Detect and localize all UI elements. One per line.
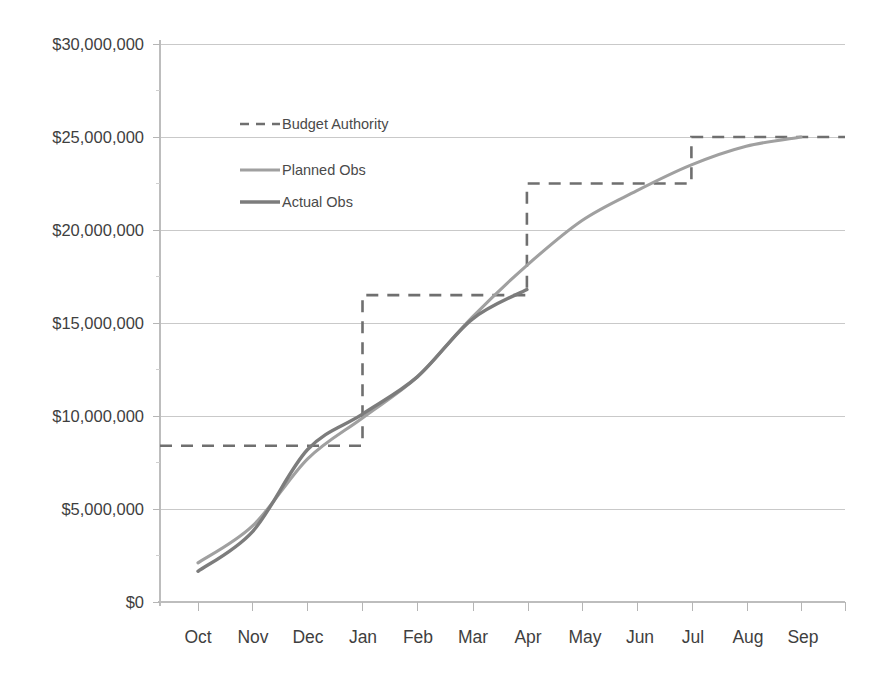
x-label-mar: Mar [458, 627, 488, 647]
x-label-aug: Aug [732, 627, 763, 647]
y-label-15m: $15,000,000 [52, 314, 144, 332]
x-tick-marks [198, 602, 845, 611]
x-label-jan: Jan [349, 627, 377, 647]
series-line-budget-authority [160, 137, 845, 446]
chart-legend: Budget Authority Planned Obs Actual Obs [240, 116, 389, 210]
x-label-apr: Apr [514, 627, 541, 647]
x-label-oct: Oct [184, 627, 211, 647]
x-label-nov: Nov [237, 627, 268, 647]
x-label-jul: Jul [682, 627, 704, 647]
y-label-5m: $5,000,000 [61, 500, 144, 518]
x-label-may: May [568, 627, 601, 647]
legend-label-budget-authority: Budget Authority [282, 116, 389, 132]
legend-label-actual-obs: Actual Obs [282, 194, 353, 210]
y-label-30m: $30,000,000 [52, 35, 144, 53]
legend-label-planned-obs: Planned Obs [282, 162, 366, 178]
y-axis-labels: $30,000,000 $25,000,000 $20,000,000 $15,… [52, 35, 144, 611]
y-label-10m: $10,000,000 [52, 407, 144, 425]
y-label-20m: $20,000,000 [52, 221, 144, 239]
y-label-0: $0 [126, 593, 144, 611]
line-chart: $30,000,000 $25,000,000 $20,000,000 $15,… [0, 0, 869, 674]
y-label-25m: $25,000,000 [52, 128, 144, 146]
x-label-jun: Jun [626, 627, 654, 647]
x-label-feb: Feb [403, 627, 433, 647]
y-tick-marks [153, 44, 160, 602]
y-gridlines [160, 44, 845, 509]
x-label-dec: Dec [292, 627, 323, 647]
x-axis-labels: Oct Nov Dec Jan Feb Mar Apr May Jun Jul … [184, 627, 818, 647]
chart-container: $30,000,000 $25,000,000 $20,000,000 $15,… [0, 0, 869, 674]
x-label-sep: Sep [787, 627, 818, 647]
